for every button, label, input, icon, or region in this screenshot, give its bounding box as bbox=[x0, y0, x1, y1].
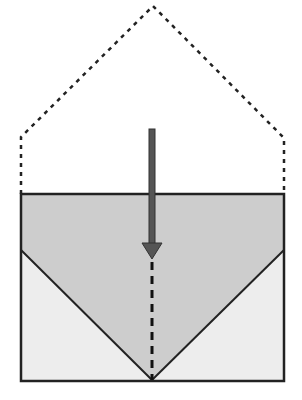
arrow-shaft bbox=[149, 129, 155, 245]
diagram-canvas bbox=[0, 0, 302, 400]
diagram-svg bbox=[0, 0, 302, 400]
